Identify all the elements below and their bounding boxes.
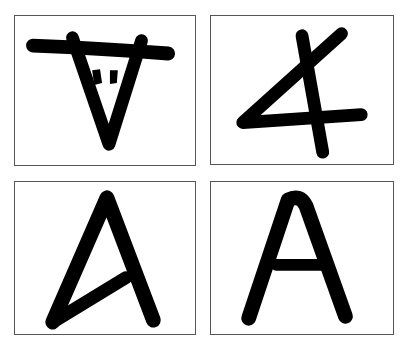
panel-rotated-aleph: Rotated proto-Semitic form <box>210 15 394 165</box>
early-alpha-glyph-icon <box>15 182 195 334</box>
ox-head-glyph-icon <box>15 16 195 165</box>
letter-a-glyph-icon <box>211 182 393 334</box>
panel-letter-a: Modern letter A <box>210 181 394 335</box>
rotated-aleph-glyph-icon <box>211 16 393 164</box>
panel-ox-head: Ox-head pictograph (aleph) <box>14 15 196 166</box>
panel-early-alpha: Early Greek alpha <box>14 181 196 335</box>
